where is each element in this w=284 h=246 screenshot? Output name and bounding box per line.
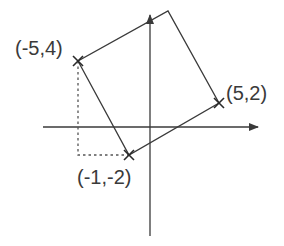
coordinate-diagram: (-5,4) (-1,-2) (5,2): [0, 0, 284, 246]
point-marker-a: [73, 56, 83, 66]
label-point-c: (5,2): [226, 82, 267, 104]
rotated-square: [78, 11, 219, 155]
label-point-b: (-1,-2): [77, 166, 131, 188]
label-point-a: (-5,4): [15, 37, 63, 59]
point-marker-b: [124, 150, 134, 160]
point-marker-c: [214, 98, 224, 108]
